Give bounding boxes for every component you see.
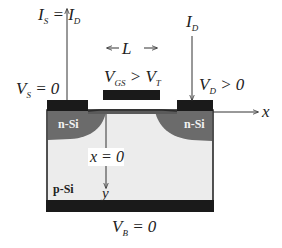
- source-voltage-label: VS = 0: [16, 80, 59, 100]
- source-contact: [47, 100, 88, 111]
- x-axis-label: x: [262, 103, 270, 120]
- drain-voltage-label: VD > 0: [199, 76, 244, 96]
- channel-length-label: L: [122, 40, 131, 57]
- drain-region-label: n-Si: [184, 118, 205, 130]
- y-axis-label: y: [102, 186, 109, 201]
- drain-current-label: ID: [186, 13, 198, 33]
- x-origin-label: x = 0: [90, 149, 124, 165]
- drain-contact: [177, 100, 213, 111]
- gate-electrode: [103, 90, 160, 100]
- substrate-region-label: p-Si: [53, 183, 74, 195]
- body-contact: [46, 200, 214, 212]
- gate-voltage-label: VGS > VT: [104, 68, 161, 88]
- body-voltage-label: VB = 0: [112, 218, 156, 238]
- mosfet-diagram: [0, 0, 282, 248]
- source-current-label: IS = ID: [38, 6, 80, 26]
- source-region-label: n-Si: [58, 118, 79, 130]
